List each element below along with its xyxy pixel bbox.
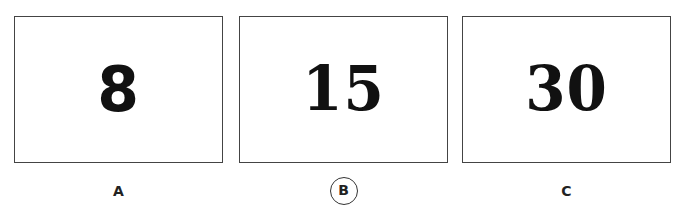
option-c[interactable]: 30 C: [462, 16, 671, 163]
option-number-b: 15: [302, 58, 385, 119]
option-number-c: 30: [525, 58, 608, 119]
option-card-a[interactable]: 8: [14, 16, 223, 163]
option-a[interactable]: 8 A: [14, 16, 223, 163]
option-number-a: 8: [97, 57, 140, 120]
option-label-a[interactable]: A: [105, 177, 133, 205]
option-card-c[interactable]: 30: [462, 16, 671, 163]
option-label-c[interactable]: C: [553, 177, 581, 205]
option-label-b-selected[interactable]: B: [330, 177, 358, 205]
option-b[interactable]: 15 B: [239, 16, 448, 163]
option-card-b[interactable]: 15: [239, 16, 448, 163]
